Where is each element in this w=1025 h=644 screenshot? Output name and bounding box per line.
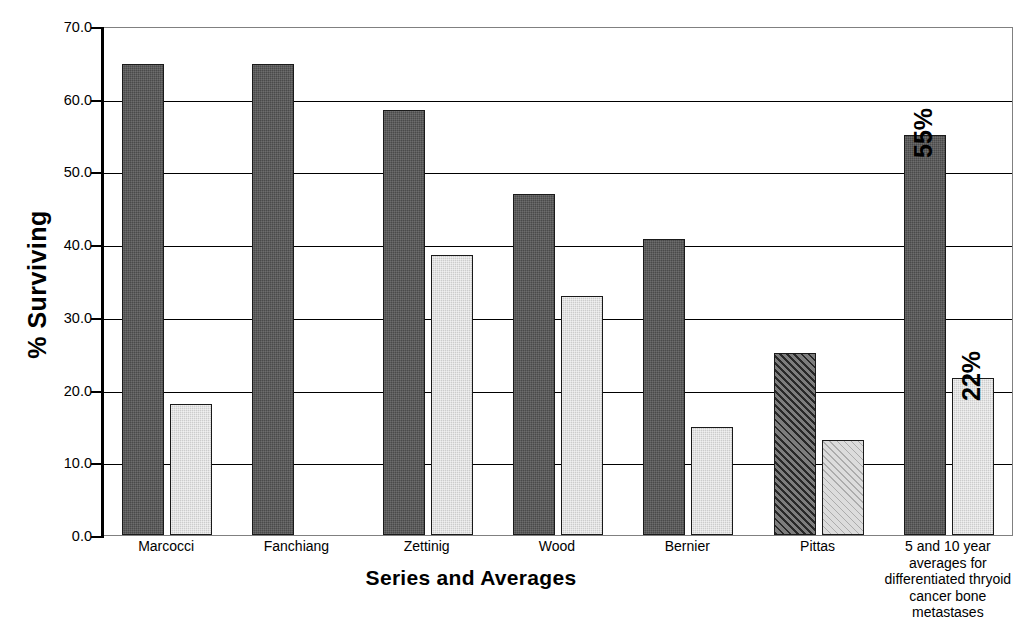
y-axis-tick-label: 30.0 (32, 310, 92, 326)
x-axis-category-label: 5 and 10 year averages for differentiate… (883, 538, 1013, 621)
gridline (102, 101, 1012, 102)
gridline (102, 319, 1012, 320)
x-axis-category-label: Zettinig (362, 538, 492, 555)
y-axis-tick (91, 391, 102, 393)
bar-value-label: 55% (909, 108, 938, 158)
y-axis-tick-label: 20.0 (32, 383, 92, 399)
y-axis-tick (91, 463, 102, 465)
bar (431, 255, 473, 535)
bar (383, 110, 425, 535)
y-axis-tick-label: 50.0 (32, 164, 92, 180)
y-axis-tick (91, 100, 102, 102)
x-axis-category-label: Bernier (622, 538, 752, 555)
x-axis-category-label: Wood (492, 538, 622, 555)
bar-chart: % Surviving 70.060.050.040.030.020.010.0… (0, 0, 1025, 644)
y-axis-tick-label: 40.0 (32, 237, 92, 253)
bar (643, 239, 685, 535)
bar-value-label: 22% (957, 351, 986, 401)
bar (122, 64, 164, 535)
gridline (102, 173, 1012, 174)
bar (513, 194, 555, 535)
bar (561, 296, 603, 535)
gridline (102, 246, 1012, 247)
gridline (102, 464, 1012, 465)
x-axis-category-label: Marcocci (101, 538, 231, 555)
y-axis-tick (91, 27, 102, 29)
y-axis-tick-label: 0.0 (32, 528, 92, 544)
bar (822, 440, 864, 535)
y-axis-tick-label: 70.0 (32, 19, 92, 35)
bar (904, 135, 946, 535)
y-axis-tick-label: 10.0 (32, 455, 92, 471)
bar (952, 378, 994, 535)
x-axis-title: Series and Averages (101, 566, 841, 590)
y-axis-tick-label: 60.0 (32, 92, 92, 108)
bar (252, 64, 294, 535)
x-axis-category-label: Pittas (752, 538, 882, 555)
y-axis-tick (91, 318, 102, 320)
bar (691, 427, 733, 535)
bar (774, 353, 816, 535)
plot-area: 55%22% (101, 27, 1013, 536)
bar (170, 404, 212, 535)
y-axis-line (101, 27, 104, 538)
y-axis-tick (91, 245, 102, 247)
y-axis-tick-labels: 70.060.050.040.030.020.010.00.0 (20, 27, 92, 536)
y-axis-tick (91, 172, 102, 174)
gridline (102, 392, 1012, 393)
x-axis-category-label: Fanchiang (231, 538, 361, 555)
x-axis-category-labels: MarcocciFanchiangZettinigWoodBernierPitt… (101, 538, 1013, 644)
